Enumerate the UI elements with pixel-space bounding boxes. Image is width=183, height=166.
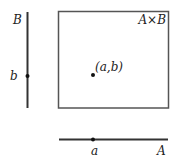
label-a: a [91,144,98,158]
label-B: B [12,13,22,27]
point-a [91,138,95,142]
product-set-box: A×B (a,b) [59,12,169,109]
cartesian-product-diagram: B b A×B (a,b) a A [0,0,183,166]
point-b [26,74,30,78]
label-ab: (a,b) [95,60,123,74]
label-b: b [10,69,18,83]
vertical-axis-b: B b [10,12,30,108]
label-AxB: A×B [137,13,166,27]
horizontal-axis-a: a A [59,138,168,159]
label-A: A [156,144,166,158]
